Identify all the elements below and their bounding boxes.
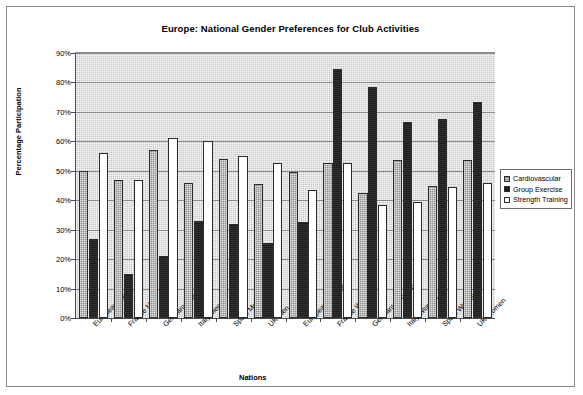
bar-group[interactable]: [438, 119, 447, 318]
y-axis-tick-label: 90%: [37, 49, 71, 58]
y-axis-tick-mark: [71, 141, 75, 142]
y-axis-tick-mark: [71, 230, 75, 231]
legend-item[interactable]: Cardiovascular: [504, 174, 568, 184]
y-axis: 0%10%20%30%40%50%60%70%80%90%: [33, 53, 71, 318]
bar-strength[interactable]: [168, 138, 177, 318]
y-axis-tick-label: 10%: [37, 285, 71, 294]
bar-strength[interactable]: [448, 187, 457, 318]
bar-group: [76, 53, 111, 318]
bar-strength[interactable]: [273, 163, 282, 318]
y-axis-tick-label: 50%: [37, 167, 71, 176]
bar-group[interactable]: [473, 102, 482, 318]
bar-strength[interactable]: [378, 205, 387, 318]
bar-strength[interactable]: [203, 141, 212, 318]
x-axis-tick-labels: European MenFrance MenGermany MenItaly M…: [75, 318, 494, 388]
y-axis-tick-mark: [71, 112, 75, 113]
bar-group[interactable]: [229, 224, 238, 318]
bar-strength[interactable]: [134, 180, 143, 318]
bar-cardio[interactable]: [393, 160, 402, 318]
bar-group: [320, 53, 355, 318]
bar-group: [251, 53, 286, 318]
bar-group[interactable]: [368, 87, 377, 318]
bar-group[interactable]: [263, 243, 272, 318]
legend-label: Group Exercise: [513, 185, 563, 194]
bar-cardio[interactable]: [219, 159, 228, 318]
bar-strength[interactable]: [413, 202, 422, 318]
y-axis-tick-mark: [71, 200, 75, 201]
y-axis-tick-label: 30%: [37, 226, 71, 235]
y-axis-tick-label: 20%: [37, 255, 71, 264]
y-axis-tick-mark: [71, 318, 75, 319]
bar-group[interactable]: [403, 122, 412, 318]
bar-cardio[interactable]: [184, 183, 193, 318]
y-axis-tick-mark: [71, 171, 75, 172]
bar-strength[interactable]: [238, 156, 247, 318]
chart-legend: CardiovascularGroup ExerciseStrength Tra…: [500, 169, 572, 209]
y-axis-tick-mark: [71, 53, 75, 54]
bar-strength[interactable]: [483, 183, 492, 318]
y-axis-tick-label: 40%: [37, 196, 71, 205]
plot-area: [75, 53, 495, 319]
bar-strength[interactable]: [308, 190, 317, 318]
bar-cardio[interactable]: [289, 172, 298, 318]
legend-swatch-group: [504, 186, 510, 192]
y-axis-title: Percentage Participation: [14, 47, 23, 217]
chart-title: Europe: National Gender Preferences for …: [7, 23, 574, 34]
y-axis-tick-label: 70%: [37, 108, 71, 117]
legend-label: Strength Training: [513, 195, 568, 204]
bar-group[interactable]: [333, 69, 342, 318]
chart-frame: Europe: National Gender Preferences for …: [6, 6, 575, 387]
bar-series-container: [76, 53, 495, 318]
bar-group: [425, 53, 460, 318]
y-axis-tick-mark: [71, 259, 75, 260]
bar-group: [216, 53, 251, 318]
bar-cardio[interactable]: [79, 171, 88, 318]
y-axis-tick-label: 0%: [37, 314, 71, 323]
bar-cardio[interactable]: [323, 163, 332, 318]
bar-strength[interactable]: [99, 153, 108, 318]
bar-group[interactable]: [89, 239, 98, 319]
legend-item[interactable]: Strength Training: [504, 195, 568, 205]
legend-label: Cardiovascular: [513, 174, 561, 183]
y-axis-tick-label: 60%: [37, 137, 71, 146]
bar-cardio[interactable]: [358, 193, 367, 318]
bar-group: [355, 53, 390, 318]
bar-group[interactable]: [159, 256, 168, 318]
bar-group: [460, 53, 495, 318]
y-axis-tick-mark: [71, 289, 75, 290]
legend-item[interactable]: Group Exercise: [504, 184, 568, 194]
bar-group: [390, 53, 425, 318]
y-axis-tick-mark: [71, 82, 75, 83]
bar-group[interactable]: [298, 222, 307, 318]
bar-cardio[interactable]: [428, 186, 437, 319]
bar-group: [181, 53, 216, 318]
bar-cardio[interactable]: [149, 150, 158, 318]
bar-group[interactable]: [194, 221, 203, 318]
bar-group[interactable]: [124, 274, 133, 318]
legend-swatch-cardio: [504, 176, 510, 182]
bar-group: [146, 53, 181, 318]
bar-cardio[interactable]: [254, 184, 263, 318]
bar-cardio[interactable]: [114, 180, 123, 318]
bar-group: [286, 53, 321, 318]
bar-cardio[interactable]: [463, 160, 472, 318]
y-axis-tick-label: 80%: [37, 78, 71, 87]
bar-strength[interactable]: [343, 163, 352, 318]
legend-swatch-strength: [504, 197, 510, 203]
x-axis-title: Nations: [239, 373, 267, 382]
bar-group: [111, 53, 146, 318]
